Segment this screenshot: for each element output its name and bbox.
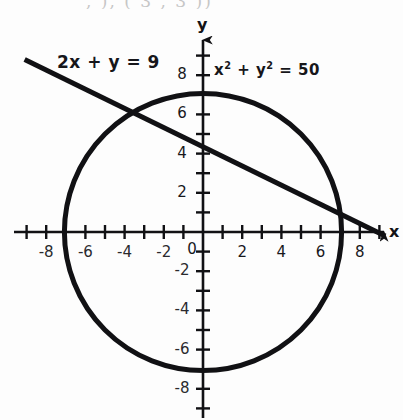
x-tick-label: 6 <box>307 243 335 261</box>
x-tick-label: -8 <box>32 243 60 261</box>
y-tick-label: -8 <box>168 379 196 397</box>
x-tick-label: -4 <box>111 243 139 261</box>
y-tick-label: 6 <box>168 104 196 122</box>
graph-figure: , ), ( 3 , 3 )) 2x + y = 9 x2 + y2 = 50 <box>0 0 403 420</box>
cropped-header-text: , ), ( 3 , 3 )) <box>86 0 266 9</box>
x-tick-label: 2 <box>228 243 256 261</box>
x-tick-label: -2 <box>150 243 178 261</box>
straight-line-curve <box>25 60 386 236</box>
line-equation-label: 2x + y = 9 <box>57 52 160 72</box>
x-axis <box>14 225 384 239</box>
y-tick-label: 8 <box>168 65 196 83</box>
x-axis-label: x <box>389 222 399 241</box>
x-tick-label: 4 <box>267 243 295 261</box>
y-tick-label: 2 <box>168 183 196 201</box>
y-tick-label: -2 <box>168 261 196 279</box>
y-axis <box>196 40 210 418</box>
y-tick-label: -4 <box>168 300 196 318</box>
x-tick-label: -6 <box>71 243 99 261</box>
y-tick-label: 4 <box>168 144 196 162</box>
y-axis-label: y <box>197 15 207 34</box>
circle-equation-label: x2 + y2 = 50 <box>214 61 320 79</box>
y-tick-label: -6 <box>168 340 196 358</box>
x-tick-label: 8 <box>346 243 374 261</box>
origin-label: 0 <box>178 240 206 258</box>
